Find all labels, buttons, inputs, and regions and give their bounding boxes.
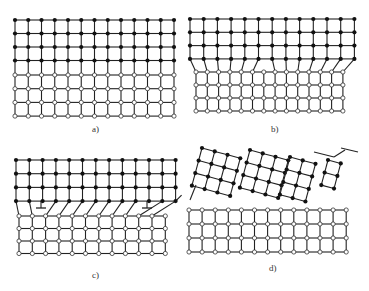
tilted-upper-lattice: [190, 146, 358, 204]
panel-b: [188, 17, 357, 113]
figure-canvas: [0, 0, 369, 291]
panel-a: [13, 18, 176, 118]
dislocation-symbol: [36, 201, 46, 208]
interface-structure-figure: a) b) c) d): [0, 0, 369, 291]
panel-c: [14, 158, 182, 256]
panel-c-label: c): [92, 270, 99, 280]
panel-a-label: a): [92, 124, 99, 134]
panel-b-label: b): [271, 124, 279, 134]
panel-d: [187, 146, 358, 254]
panel-d-label: d): [269, 263, 277, 273]
